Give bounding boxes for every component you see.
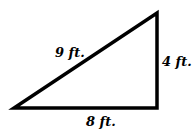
triangle-diagram: 9 ft. 4 ft. 8 ft.: [0, 0, 196, 133]
base-label: 8 ft.: [86, 114, 116, 129]
right-triangle: [14, 13, 157, 108]
hypotenuse-label: 9 ft.: [55, 45, 85, 60]
vertical-side-label: 4 ft.: [162, 54, 192, 69]
